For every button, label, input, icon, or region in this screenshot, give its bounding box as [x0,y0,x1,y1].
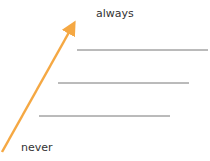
scale-diagram [0,0,210,161]
scale-arrow [2,27,72,152]
label-always: always [96,7,134,20]
label-never: never [21,141,53,154]
